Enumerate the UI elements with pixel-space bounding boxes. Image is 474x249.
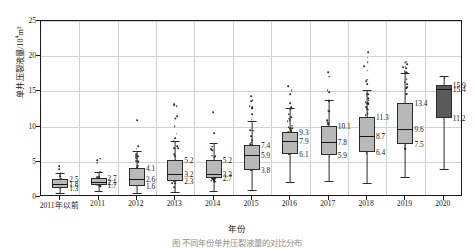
- gridline-vertical: [118, 21, 119, 195]
- scatter-point: [176, 133, 178, 135]
- scatter-point: [289, 102, 291, 104]
- gridline-vertical: [348, 21, 349, 195]
- whisker-cap-upper: [401, 73, 410, 74]
- scatter-point: [406, 61, 408, 63]
- x-axis-title: 年份: [0, 222, 474, 234]
- whisker-cap-upper: [286, 108, 295, 109]
- whisker-cap-upper: [363, 90, 372, 91]
- scatter-point: [289, 94, 291, 96]
- scatter-point: [171, 182, 173, 184]
- median-line: [206, 174, 222, 175]
- scatter-point: [136, 119, 138, 121]
- gridline-vertical: [156, 21, 157, 195]
- box-rect: [436, 85, 452, 118]
- scatter-point: [173, 105, 175, 107]
- gridline-horizontal: [41, 21, 461, 22]
- scatter-point: [250, 95, 252, 97]
- x-axis-tick-label: 2020: [435, 199, 450, 208]
- box-rect: [206, 160, 222, 178]
- x-axis-tick-mark: [366, 196, 367, 200]
- box-rect: [244, 145, 260, 170]
- x-axis-tick-mark: [289, 196, 290, 200]
- median-value-label: 9.6: [414, 125, 423, 134]
- whisker-cap-lower: [439, 169, 448, 170]
- y-axis-tick-label: 25: [10, 16, 36, 25]
- scatter-point: [291, 127, 293, 129]
- whisker-cap-upper: [56, 173, 65, 174]
- scatter-point: [96, 162, 98, 164]
- median-value-label: 8.7: [376, 131, 385, 140]
- scatter-point: [137, 145, 139, 147]
- x-axis-tick-label: 2011年以前: [40, 199, 79, 210]
- scatter-point: [368, 109, 370, 111]
- whisker-cap-upper: [209, 143, 218, 144]
- median-value-label: 7.8: [338, 138, 347, 147]
- q1-value-label: 1.3: [69, 183, 78, 192]
- q1-value-label: 7.5: [414, 140, 423, 149]
- whisker-cap-upper: [324, 100, 333, 101]
- x-axis-tick-mark: [98, 196, 99, 200]
- median-line: [167, 174, 183, 175]
- scatter-point: [251, 108, 253, 110]
- q3-value-label: 7.4: [261, 140, 270, 149]
- x-axis-tick-mark: [59, 196, 60, 200]
- scatter-point: [176, 115, 178, 117]
- box-rect: [321, 126, 337, 156]
- x-axis-tick-label: 2017: [320, 199, 335, 208]
- scatter-point: [405, 68, 407, 70]
- x-axis-tick-mark: [328, 196, 329, 200]
- q1-value-label: 3.8: [261, 166, 270, 175]
- scatter-point: [367, 61, 369, 63]
- scatter-point: [252, 99, 254, 101]
- q1-value-label: 11.2: [453, 114, 466, 123]
- scatter-point: [406, 78, 408, 80]
- y-axis-tick-mark: [36, 55, 40, 56]
- scatter-point: [406, 84, 408, 86]
- scatter-point: [212, 112, 214, 114]
- x-axis-tick-label: 2019: [397, 199, 412, 208]
- chart-figure: 单井压裂液量/104m³ 2.51.81.32.72.11.74.12.61.6…: [0, 0, 474, 249]
- scatter-point: [328, 91, 330, 93]
- y-axis-tick-label: 15: [10, 86, 36, 95]
- scatter-point: [367, 57, 369, 59]
- x-axis-tick-mark: [443, 196, 444, 200]
- whisker-cap-upper: [171, 141, 180, 142]
- y-axis-tick-mark: [36, 161, 40, 162]
- median-line: [397, 129, 413, 130]
- y-axis-tick-mark: [36, 196, 40, 197]
- median-line: [359, 136, 375, 137]
- scatter-point: [177, 147, 179, 149]
- median-value-label: 7.9: [299, 137, 308, 146]
- median-line: [52, 184, 68, 185]
- x-axis-tick-label: 2014: [205, 199, 220, 208]
- box-rect: [129, 168, 145, 186]
- x-axis-tick-mark: [174, 196, 175, 200]
- scatter-point: [58, 165, 60, 167]
- scatter-point: [100, 158, 102, 160]
- y-axis-exponent: 4: [14, 35, 20, 38]
- q3-value-label: 5.2: [223, 156, 232, 165]
- scatter-point: [136, 148, 138, 150]
- q1-value-label: 1.6: [146, 181, 155, 190]
- scatter-point: [252, 114, 254, 116]
- y-axis-tick-mark: [36, 90, 40, 91]
- y-axis-tick-mark: [36, 126, 40, 127]
- scatter-point: [210, 180, 212, 182]
- whisker-cap-lower: [171, 192, 180, 193]
- scatter-point: [174, 137, 176, 139]
- gridline-vertical: [310, 21, 311, 195]
- q3-value-label: 5.2: [184, 156, 193, 165]
- median-line: [321, 142, 337, 143]
- median-line: [282, 141, 298, 142]
- whisker-cap-lower: [209, 191, 218, 192]
- q1-value-label: 6.4: [376, 147, 385, 156]
- q1-value-label: 5.9: [338, 151, 347, 160]
- x-axis-tick-label: 2015: [243, 199, 258, 208]
- x-axis-tick-mark: [404, 196, 405, 200]
- q3-value-label: 9.3: [299, 127, 308, 136]
- gridline-vertical: [233, 21, 234, 195]
- x-axis-tick-mark: [251, 196, 252, 200]
- whisker-cap-lower: [401, 177, 410, 178]
- scatter-point: [287, 120, 289, 122]
- scatter-point: [291, 89, 293, 91]
